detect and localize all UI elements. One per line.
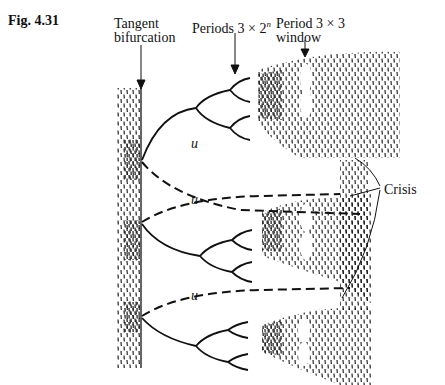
bifurcation-diagram (0, 0, 445, 385)
chaotic-region-top (258, 52, 400, 158)
stable-branches (142, 78, 252, 370)
chaotic-band-left (116, 88, 141, 368)
chaotic-region-middle (262, 160, 372, 310)
chaotic-region-bottom (262, 308, 372, 385)
